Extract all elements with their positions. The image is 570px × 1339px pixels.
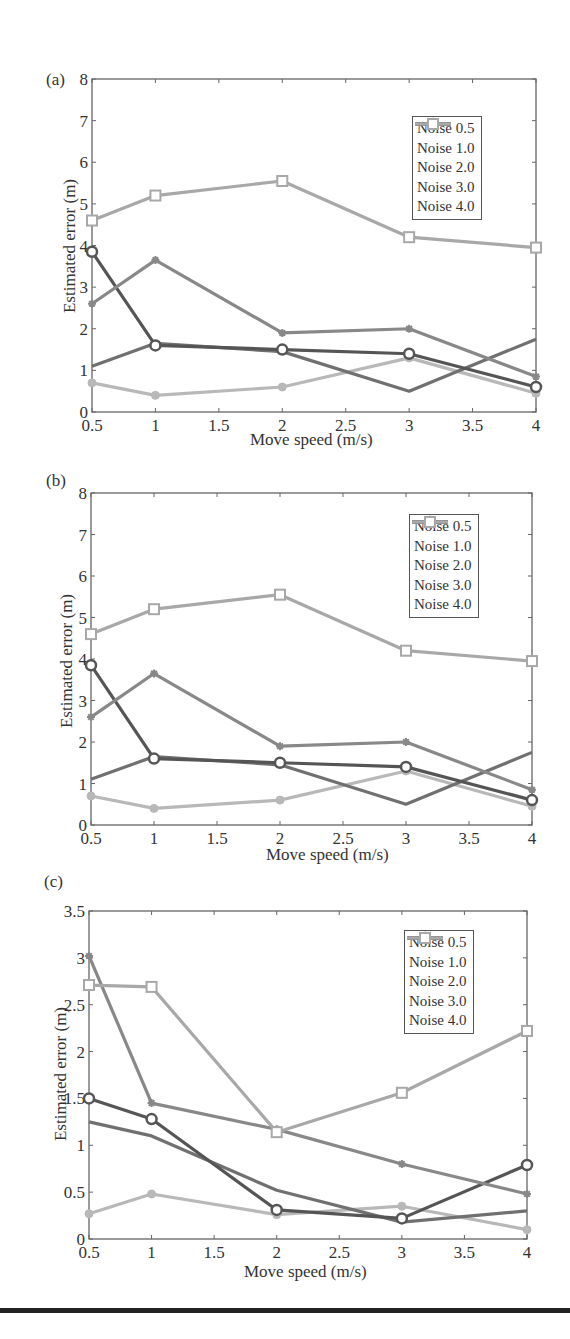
y-tick-label: 0.5 [64, 1183, 85, 1202]
legend-item: Noise 4.0 [409, 1011, 467, 1031]
x-tick-label: 2.5 [329, 1243, 350, 1262]
y-tick-label: 1.5 [64, 1089, 85, 1108]
legend-label: Noise 3.0 [409, 993, 467, 1010]
x-tick-label: 2 [272, 1243, 281, 1262]
legend-item: Noise 3.0 [409, 992, 467, 1012]
y-tick-label: 3 [77, 949, 86, 968]
legend-swatch-icon [405, 931, 445, 945]
legend-item: Noise 1.0 [409, 953, 467, 973]
x-tick-label: 3.5 [454, 1243, 475, 1262]
legend-label: Noise 2.0 [409, 973, 467, 990]
y-tick-label: 1 [77, 1136, 86, 1155]
series-noise-2-0 [84, 1093, 532, 1223]
x-tick-label: 3 [398, 1243, 407, 1262]
x-tick-label: 4 [523, 1243, 532, 1262]
plot-area-c: 0.511.522.533.5400.511.522.533.5 [0, 0, 570, 1339]
legend-c: Noise 0.5Noise 1.0Noise 2.0Noise 3.0Nois… [404, 930, 474, 1034]
legend-label: Noise 1.0 [409, 954, 467, 971]
x-tick-label: 1.5 [204, 1243, 225, 1262]
y-tick-label: 2.5 [64, 996, 85, 1015]
bottom-rule [0, 1308, 570, 1313]
legend-label: Noise 4.0 [409, 1012, 467, 1029]
x-tick-label: 1 [147, 1243, 156, 1262]
legend-item: Noise 2.0 [409, 972, 467, 992]
y-tick-label: 3.5 [64, 902, 85, 921]
y-tick-label: 2 [77, 1043, 86, 1062]
chart-panel-c: (c) Estimated error (m) Move speed (m/s)… [0, 0, 570, 1339]
y-tick-label: 0 [77, 1230, 86, 1249]
